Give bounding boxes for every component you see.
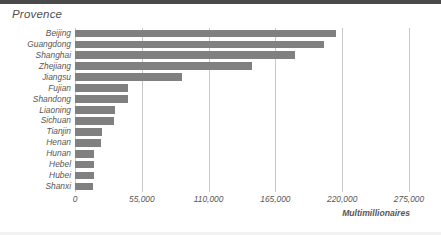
category-label-shandong: Shandong bbox=[0, 94, 71, 105]
category-label-liaoning: Liaoning bbox=[0, 105, 71, 116]
bar-shanghai bbox=[75, 51, 295, 59]
category-label-zhejiang: Zhejiang bbox=[0, 61, 71, 72]
bar-zhejiang bbox=[75, 62, 252, 70]
bar-shanxi bbox=[75, 183, 93, 191]
category-label-hubei: Hubei bbox=[0, 170, 71, 181]
category-label-guangdong: Guangdong bbox=[0, 39, 71, 50]
chart-title: Provence bbox=[12, 8, 62, 20]
tick-label-2: 110,000 bbox=[194, 194, 224, 204]
bar-row bbox=[75, 159, 409, 170]
category-label-shanxi: Shanxi bbox=[0, 181, 71, 192]
bar-row bbox=[75, 105, 409, 116]
bar-row bbox=[75, 94, 409, 105]
bar-hunan bbox=[75, 150, 94, 158]
bar-hebel bbox=[75, 161, 94, 169]
bar-beijing bbox=[75, 30, 336, 38]
bar-tianjin bbox=[75, 128, 102, 136]
bar-row bbox=[75, 83, 409, 94]
category-label-sichuan: Sichuan bbox=[0, 115, 71, 126]
top-border-band bbox=[0, 0, 441, 4]
category-label-hunan: Hunan bbox=[0, 148, 71, 159]
chart-figure: Provence BeijingGuangdongShanghaiZhejian… bbox=[0, 0, 441, 235]
tick-label-4: 220,000 bbox=[327, 194, 357, 204]
tick-label-0: 0 bbox=[73, 194, 78, 204]
tick-label-1: 55,000 bbox=[129, 194, 155, 204]
bar-row bbox=[75, 170, 409, 181]
bar-row bbox=[75, 39, 409, 50]
bar-row bbox=[75, 72, 409, 83]
category-label-henan: Henan bbox=[0, 137, 71, 148]
bar-hubei bbox=[75, 172, 94, 180]
bar-sichuan bbox=[75, 117, 114, 125]
category-label-tianjin: Tianjin bbox=[0, 126, 71, 137]
tick-label-3: 165,000 bbox=[260, 194, 290, 204]
bar-fujian bbox=[75, 84, 128, 92]
bottom-border-band bbox=[0, 232, 441, 235]
bar-row bbox=[75, 148, 409, 159]
bar-row bbox=[75, 181, 409, 192]
plot-area bbox=[75, 28, 409, 192]
bar-shandong bbox=[75, 95, 128, 103]
bar-henan bbox=[75, 139, 101, 147]
category-label-hebel: Hebel bbox=[0, 159, 71, 170]
bar-row bbox=[75, 126, 409, 137]
category-axis-labels: BeijingGuangdongShanghaiZhejiangJiangsuF… bbox=[0, 28, 71, 192]
bar-row bbox=[75, 115, 409, 126]
bar-guangdong bbox=[75, 41, 324, 49]
tick-label-5: 275,000 bbox=[394, 194, 424, 204]
bar-series bbox=[75, 28, 409, 192]
value-axis-tick-labels: 055,000110,000165,000220,000275,000 bbox=[0, 194, 441, 208]
bar-row bbox=[75, 28, 409, 39]
bar-jiangsu bbox=[75, 73, 182, 81]
gridline-5 bbox=[409, 28, 410, 192]
category-label-shanghai: Shanghai bbox=[0, 50, 71, 61]
bar-row bbox=[75, 61, 409, 72]
category-label-fujian: Fujian bbox=[0, 83, 71, 94]
bar-row bbox=[75, 50, 409, 61]
category-label-jiangsu: Jiangsu bbox=[0, 72, 71, 83]
category-label-beijing: Beijing bbox=[0, 28, 71, 39]
bar-liaoning bbox=[75, 106, 115, 114]
x-axis-title: Multimillionaires bbox=[342, 208, 410, 218]
bar-row bbox=[75, 137, 409, 148]
